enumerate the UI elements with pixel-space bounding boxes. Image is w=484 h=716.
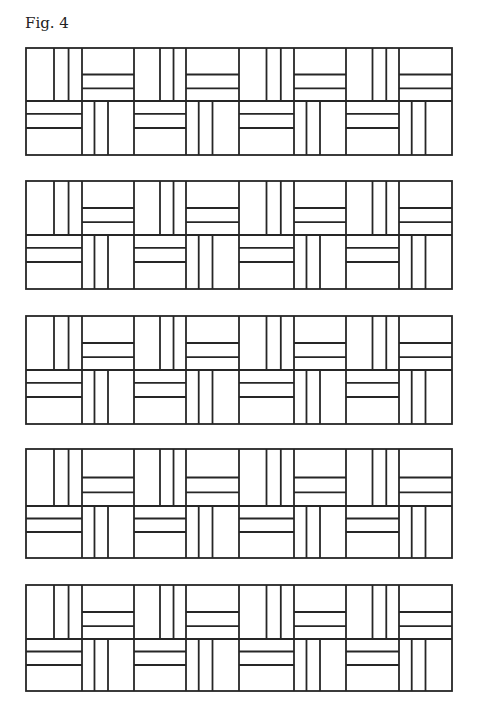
parquet-pattern-diagram bbox=[0, 0, 484, 716]
